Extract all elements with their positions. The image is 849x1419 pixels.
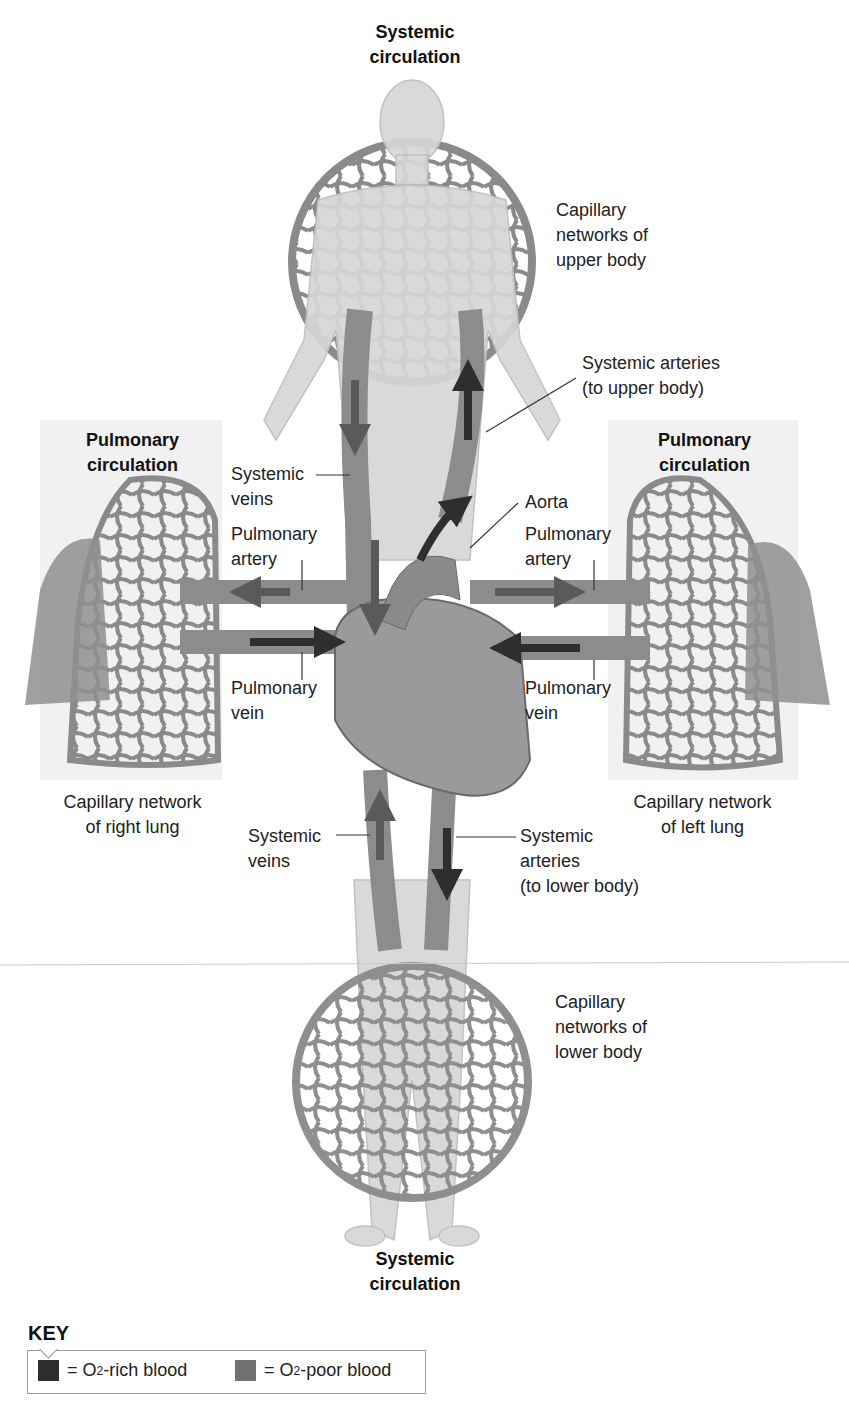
label-systemic-arteries-upper: Systemic arteries (to upper body) xyxy=(582,351,720,401)
title-pulmonary-left: Pulmonary circulation xyxy=(70,428,195,478)
label-pulmonary-artery-left: Pulmonary artery xyxy=(231,522,317,572)
o2-poor-swatch xyxy=(235,1360,256,1381)
label-systemic-veins-upper: Systemic veins xyxy=(231,462,304,512)
lower-capillary-network xyxy=(296,966,528,1198)
label-capillary-upper: Capillary networks of upper body xyxy=(556,198,648,273)
label-pulmonary-artery-right: Pulmonary artery xyxy=(525,522,611,572)
legend-item-o2-rich: = O2-rich blood xyxy=(38,1360,187,1381)
label-systemic-veins-lower: Systemic veins xyxy=(248,824,321,874)
label-pulmonary-vein-left: Pulmonary vein xyxy=(231,676,317,726)
label-pulmonary-vein-right: Pulmonary vein xyxy=(525,676,611,726)
legend: = O2-rich blood = O2-poor blood xyxy=(27,1350,426,1394)
label-systemic-arteries-lower: Systemic arteries (to lower body) xyxy=(520,824,639,899)
circulation-illustration xyxy=(0,0,849,1419)
title-pulmonary-right: Pulmonary circulation xyxy=(642,428,767,478)
title-systemic-top: Systemic circulation xyxy=(355,20,475,70)
legend-item-o2-poor: = O2-poor blood xyxy=(235,1360,391,1381)
right-lung xyxy=(25,478,218,765)
left-lung xyxy=(626,478,830,767)
o2-rich-swatch xyxy=(38,1360,59,1381)
title-systemic-bottom: Systemic circulation xyxy=(355,1247,475,1297)
label-capillary-right-lung: Capillary network of right lung xyxy=(40,790,225,840)
label-aorta: Aorta xyxy=(525,490,568,515)
label-capillary-lower: Capillary networks of lower body xyxy=(555,990,647,1065)
